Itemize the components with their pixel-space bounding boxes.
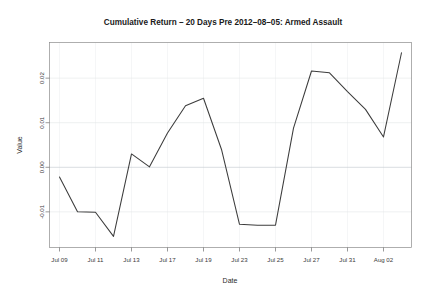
y-axis-title: Value [16, 136, 23, 153]
y-tick-label: 0.02 [38, 72, 45, 84]
x-tick-label: Jul 31 [339, 256, 356, 263]
y-tick-label: -0.01 [38, 204, 45, 219]
x-tick-label: Jul 13 [123, 256, 140, 263]
x-tick-label: Jul 27 [303, 256, 320, 263]
x-tick-label: Jul 25 [267, 256, 284, 263]
x-tick-label: Jul 23 [231, 256, 248, 263]
x-axis-title: Date [223, 277, 238, 284]
x-tick-label: Jul 17 [159, 256, 176, 263]
x-tick-label: Aug 02 [374, 256, 394, 263]
cumulative-return-line-chart: Cumulative Return – 20 Days Pre 2012–08–… [0, 0, 446, 301]
x-tick-label: Jul 11 [88, 256, 104, 263]
x-tick-label: Jul 19 [195, 256, 212, 263]
x-tick-label: Jul 09 [51, 256, 68, 263]
chart-container: Cumulative Return – 20 Days Pre 2012–08–… [0, 0, 446, 301]
y-tick-label: 0.01 [38, 116, 45, 128]
y-tick-label: 0.00 [38, 161, 45, 173]
chart-title: Cumulative Return – 20 Days Pre 2012–08–… [104, 18, 343, 27]
